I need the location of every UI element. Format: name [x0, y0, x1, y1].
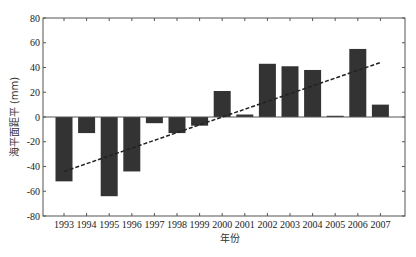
bar-2004: [304, 70, 321, 117]
x-axis-label: 年份: [220, 232, 240, 244]
y-axis-label: 海平面距平 (mm): [6, 77, 21, 157]
y-tick-label: -20: [27, 136, 40, 147]
x-tick-label: 1994: [77, 219, 97, 230]
bar-2006: [349, 49, 366, 117]
x-tick-label: 1993: [54, 219, 74, 230]
y-tick-label: -60: [27, 186, 40, 197]
bars: [56, 49, 389, 196]
bar-2002: [259, 64, 276, 117]
x-tick-label: 1998: [167, 219, 187, 230]
bar-2000: [214, 91, 231, 117]
bar-1999: [191, 117, 208, 126]
x-tick-label: 1999: [190, 219, 210, 230]
x-tick-label: 2002: [257, 219, 277, 230]
x-tick-label: 1995: [99, 219, 119, 230]
y-tick-label: 0: [35, 112, 40, 123]
bar-1995: [101, 117, 118, 196]
bar-1993: [56, 117, 73, 181]
x-tick-label: 2000: [212, 219, 232, 230]
x-tick-label: 1997: [144, 219, 164, 230]
y-tick-label: 80: [30, 13, 40, 24]
bar-2007: [372, 105, 389, 117]
bar-1994: [78, 117, 95, 133]
x-tick-label: 2003: [280, 219, 300, 230]
y-tick-label: -80: [27, 211, 40, 222]
y-tick-label: 20: [30, 87, 40, 98]
x-tick-label: 2006: [348, 219, 368, 230]
bar-2003: [282, 66, 299, 117]
bar-1997: [146, 117, 163, 123]
sea-level-anomaly-chart: 806040200-20-40-60-80 199319941995199619…: [0, 0, 416, 257]
x-tick-label: 2001: [235, 219, 255, 230]
bar-1998: [169, 117, 186, 133]
x-tick-label: 2004: [303, 219, 323, 230]
bar-1996: [123, 117, 140, 171]
x-tick-label: 1996: [122, 219, 142, 230]
y-tick-label: -40: [27, 161, 40, 172]
x-tick-label: 2007: [370, 219, 390, 230]
y-tick-label: 60: [30, 37, 40, 48]
y-tick-label: 40: [30, 62, 40, 73]
x-tick-label: 2005: [325, 219, 345, 230]
